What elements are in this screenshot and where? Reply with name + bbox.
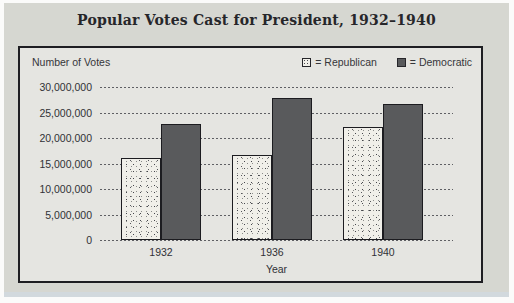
chart-title: Popular Votes Cast for President, 1932–1… — [4, 12, 509, 28]
bar-republican-1932 — [121, 158, 161, 240]
y-axis-tick-label: 10,000,000 — [26, 183, 92, 195]
legend: = Republican = Democratic — [302, 56, 472, 68]
y-axis-tick-label: 5,000,000 — [26, 209, 92, 221]
y-axis-title: Number of Votes — [32, 56, 110, 68]
chart-panel: Number of Votes = Republican = Democrati… — [18, 46, 483, 283]
legend-label-democratic: = Democratic — [410, 56, 472, 68]
bar-democratic-1932 — [161, 124, 201, 240]
legend-item-republican: = Republican — [302, 56, 377, 68]
x-axis-tick-label: 1936 — [242, 246, 302, 258]
gridline — [100, 240, 453, 241]
chart-card: Popular Votes Cast for President, 1932–1… — [4, 3, 509, 297]
gridline — [100, 87, 453, 88]
y-axis-tick-label: 0 — [26, 234, 92, 246]
legend-item-democratic: = Democratic — [397, 56, 472, 68]
republican-swatch-icon — [302, 58, 311, 67]
x-axis-tick-label: 1932 — [131, 246, 191, 258]
y-axis-tick-label: 25,000,000 — [26, 107, 92, 119]
x-axis-title: Year — [237, 263, 317, 275]
legend-label-republican: = Republican — [315, 56, 377, 68]
y-axis-tick-label: 30,000,000 — [26, 81, 92, 93]
bar-democratic-1940 — [383, 104, 423, 240]
x-axis-tick-label: 1940 — [353, 246, 413, 258]
bar-democratic-1936 — [272, 98, 312, 240]
y-axis-tick-label: 20,000,000 — [26, 132, 92, 144]
democratic-swatch-icon — [397, 58, 406, 67]
bottom-strip — [4, 292, 509, 297]
bar-republican-1940 — [343, 127, 383, 240]
bar-republican-1936 — [232, 155, 272, 240]
y-axis-tick-label: 15,000,000 — [26, 158, 92, 170]
